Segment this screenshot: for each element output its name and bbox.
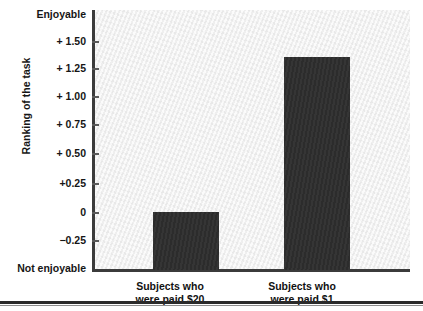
ytick-mark-minus-0-25	[92, 240, 99, 242]
ytick-mark-0-25	[92, 183, 99, 185]
ytick-mark-1-00	[92, 96, 99, 98]
ytick-mark-1-25	[92, 68, 99, 70]
bar-chart-figure: Enjoyable Not enjoyable + 1.50 + 1.25 + …	[0, 0, 423, 311]
ytick-label-0: 0	[8, 206, 86, 218]
xtick-label-line1: Subjects who	[232, 280, 372, 293]
y-axis-top-anchor-label: Enjoyable	[2, 8, 86, 20]
bar-subjects-paid-1	[284, 57, 350, 270]
bottom-divider-rule	[0, 301, 423, 304]
plot-area	[92, 10, 410, 272]
ytick-mark-0-50	[92, 153, 99, 155]
ytick-mark-0-75	[92, 124, 99, 126]
ytick-mark-0	[92, 212, 99, 214]
plot-background-texture	[95, 10, 410, 269]
ytick-label-0-25: +0.25	[8, 177, 86, 189]
bottom-divider-rule-shadow	[0, 305, 423, 306]
bar-subjects-paid-20	[153, 212, 219, 270]
ytick-label-minus-0-25: −0.25	[8, 234, 86, 246]
y-axis-bottom-anchor-label: Not enjoyable	[2, 262, 86, 274]
y-axis-title: Ranking of the task	[20, 36, 32, 176]
xtick-label-line1: Subjects who	[100, 280, 240, 293]
ytick-mark-1-50	[92, 41, 99, 43]
